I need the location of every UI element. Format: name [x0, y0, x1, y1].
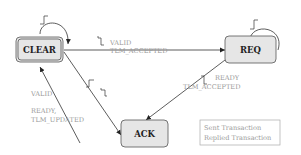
state-clear: CLEAR: [16, 37, 63, 62]
state-label-req: REQ: [240, 45, 262, 55]
edge-label-ack-clear-line2: TLM_UPDATED: [31, 116, 84, 124]
state-label-clear: CLEAR: [23, 45, 57, 55]
edge-label-ack-clear-line1: READY,: [31, 107, 56, 115]
legend: Sent Transaction Replied Transaction: [200, 120, 280, 145]
edge-ack-to-clear: [40, 67, 80, 143]
legend-item-sent: Sent Transaction: [204, 124, 262, 132]
legend-item-replied: Replied Transaction: [204, 134, 272, 142]
edge-label-clear-req-line1: VALID: [109, 39, 131, 47]
state-req: REQ: [225, 36, 276, 63]
edge-label-clear-req-line2: TLM_ACCEPTED: [110, 47, 167, 55]
state-label-ack: ACK: [133, 129, 155, 139]
edge-label-req-ack-line2: TLM_ACCEPTED: [183, 83, 240, 91]
edge-label-clear-ack-line1: VALID: [30, 90, 52, 98]
state-ack: ACK: [121, 120, 168, 147]
edge-label-req-ack-line1: READY: [215, 74, 240, 82]
state-diagram: VALID TLM_ACCEPTED READY TLM_ACCEPTED VA…: [0, 0, 301, 155]
